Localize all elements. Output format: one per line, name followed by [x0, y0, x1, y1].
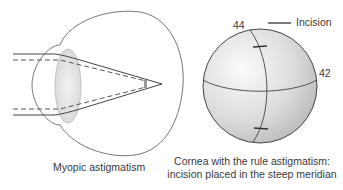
- focal-point: [144, 80, 147, 88]
- flat-meridian-value: 42: [319, 67, 331, 79]
- left-caption: Myopic astigmatism: [53, 161, 145, 174]
- incision-mark-top: [253, 46, 267, 47]
- right-caption-line2: incision placed in the steep meridian: [162, 168, 342, 181]
- right-caption: Cornea with the rule astigmatism: incisi…: [162, 155, 342, 180]
- steep-meridian-value: 44: [233, 19, 245, 31]
- right-caption-line1: Cornea with the rule astigmatism:: [162, 155, 342, 168]
- legend-incision-label: Incision: [296, 16, 332, 28]
- incision-mark-bottom: [254, 128, 268, 129]
